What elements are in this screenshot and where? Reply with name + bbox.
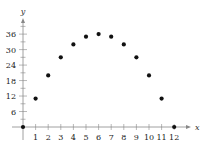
- x-tick-label: 4: [71, 133, 76, 142]
- x-tick-label: 2: [46, 133, 51, 142]
- data-point: [147, 73, 151, 77]
- x-tick-label: 12: [169, 133, 179, 142]
- data-point: [97, 32, 101, 36]
- y-axis-label: y: [20, 7, 26, 16]
- y-tick-label: 36: [6, 30, 16, 39]
- x-tick-label: 3: [58, 133, 63, 142]
- y-tick-label: 6: [11, 108, 16, 117]
- data-point: [122, 42, 126, 46]
- x-tick-label: 1: [33, 133, 38, 142]
- data-point: [59, 55, 63, 59]
- data-point: [71, 42, 75, 46]
- y-tick-label: 18: [6, 77, 16, 86]
- y-tick-label: 30: [6, 46, 16, 55]
- x-tick-label: 8: [121, 133, 126, 142]
- data-point: [160, 97, 164, 101]
- x-axis-label: x: [195, 123, 200, 132]
- scatter-chart: 12345678910111261218243036 x y: [0, 0, 202, 150]
- x-tick-label: 9: [134, 133, 139, 142]
- data-point: [21, 125, 25, 129]
- data-points: [21, 32, 176, 129]
- data-point: [109, 35, 113, 39]
- x-tick-label: 5: [83, 133, 88, 142]
- x-axis-arrow-icon: [186, 125, 191, 129]
- data-point: [34, 97, 38, 101]
- data-point: [84, 35, 88, 39]
- y-axis-arrow-icon: [21, 18, 25, 23]
- data-point: [172, 125, 176, 129]
- axes: [12, 18, 191, 140]
- y-tick-label: 24: [6, 61, 16, 70]
- ticks: 12345678910111261218243036: [6, 26, 179, 142]
- data-point: [46, 73, 50, 77]
- data-point: [134, 55, 138, 59]
- x-tick-label: 6: [96, 133, 101, 142]
- x-tick-label: 11: [157, 133, 167, 142]
- x-tick-label: 10: [144, 133, 154, 142]
- y-tick-label: 12: [6, 92, 16, 101]
- x-tick-label: 7: [109, 133, 114, 142]
